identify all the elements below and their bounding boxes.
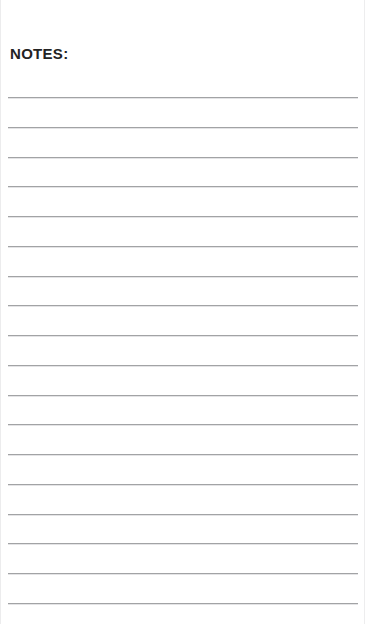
- rule-line[interactable]: [8, 305, 358, 306]
- rule-line[interactable]: [8, 484, 358, 485]
- rule-line[interactable]: [8, 603, 358, 604]
- notes-page: NOTES:: [0, 0, 365, 624]
- rule-line[interactable]: [8, 335, 358, 336]
- ruled-lines-group: [8, 80, 358, 614]
- rule-line[interactable]: [8, 157, 358, 158]
- rule-line[interactable]: [8, 514, 358, 515]
- page-inner: NOTES:: [0, 0, 365, 624]
- rule-line[interactable]: [8, 276, 358, 277]
- rule-line[interactable]: [8, 97, 358, 98]
- notes-writing-area[interactable]: [8, 80, 358, 614]
- rule-line[interactable]: [8, 246, 358, 247]
- rule-line[interactable]: [8, 127, 358, 128]
- rule-line[interactable]: [8, 573, 358, 574]
- rule-line[interactable]: [8, 543, 358, 544]
- rule-line[interactable]: [8, 395, 358, 396]
- rule-line[interactable]: [8, 454, 358, 455]
- rule-line[interactable]: [8, 186, 358, 187]
- page-title: NOTES:: [10, 44, 68, 64]
- rule-line[interactable]: [8, 365, 358, 366]
- rule-line[interactable]: [8, 424, 358, 425]
- rule-line[interactable]: [8, 216, 358, 217]
